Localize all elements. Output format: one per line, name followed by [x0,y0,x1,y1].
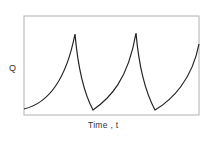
charge-time-figure: Q Time , t [0,0,210,148]
x-axis-label: Time , t [88,120,118,130]
y-axis-label: Q [9,63,16,73]
plot-frame [24,16,199,115]
q-curve [24,33,199,110]
